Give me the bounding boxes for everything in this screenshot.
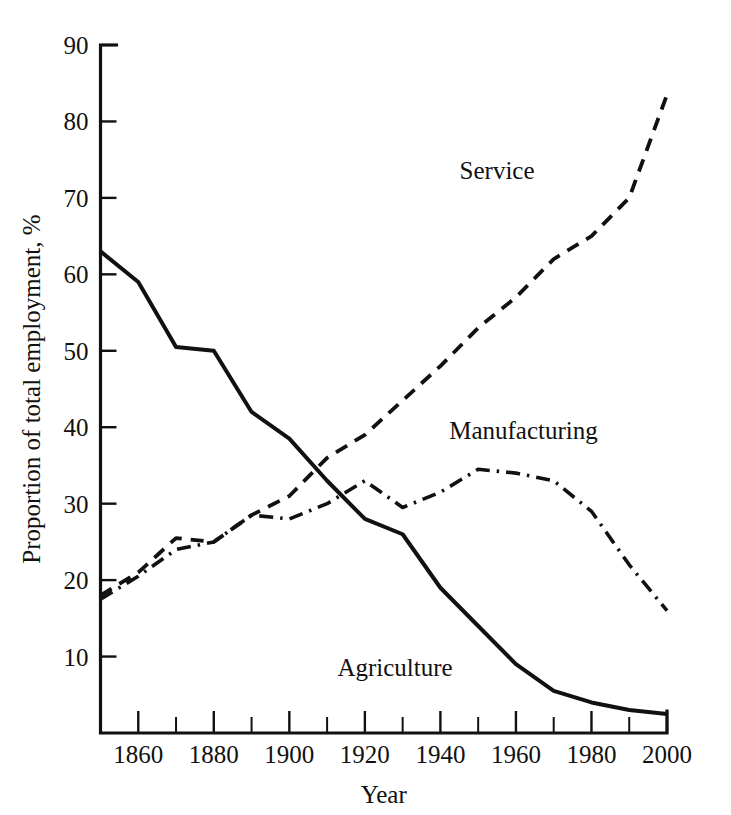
y-axis-title: Proportion of total employment, % (18, 214, 45, 563)
x-tick-label: 1980 (566, 741, 616, 768)
y-axis-ticks (101, 45, 117, 657)
series-line-agriculture (101, 251, 668, 713)
y-tick-label: 20 (64, 567, 89, 594)
axis-lines (101, 45, 668, 733)
x-tick-label: 1900 (264, 741, 314, 768)
x-tick-label: 1960 (491, 741, 541, 768)
series-label-service: Service (460, 157, 535, 184)
x-tick-label: 1920 (340, 741, 390, 768)
series-line-service (101, 95, 668, 596)
x-axis-ticks (138, 711, 667, 733)
chart-container: 102030405060708090 186018801900192019401… (0, 0, 731, 815)
x-tick-label: 1860 (113, 741, 163, 768)
y-tick-label: 30 (64, 491, 89, 518)
x-tick-label: 1880 (189, 741, 239, 768)
x-tick-label: 1940 (415, 741, 465, 768)
chart-axes (101, 45, 668, 733)
x-axis-title: Year (361, 781, 408, 808)
y-tick-label: 40 (64, 414, 89, 441)
x-axis-tick-labels: 18601880190019201940196019802000 (113, 741, 692, 768)
y-tick-label: 90 (64, 32, 89, 59)
y-tick-label: 80 (64, 108, 89, 135)
series-label-manufacturing: Manufacturing (449, 417, 598, 444)
series-label-agriculture: Agriculture (337, 654, 452, 681)
y-tick-label: 10 (64, 644, 89, 671)
y-tick-label: 70 (64, 185, 89, 212)
employment-proportion-line-chart: 102030405060708090 186018801900192019401… (0, 0, 731, 815)
y-axis-tick-labels: 102030405060708090 (64, 32, 89, 671)
x-tick-label: 2000 (642, 741, 692, 768)
series-line-manufacturing (101, 469, 668, 610)
data-series-lines (101, 95, 668, 714)
y-tick-label: 50 (64, 338, 89, 365)
y-tick-label: 60 (64, 261, 89, 288)
series-annotations: ServiceManufacturingAgriculture (337, 157, 598, 681)
